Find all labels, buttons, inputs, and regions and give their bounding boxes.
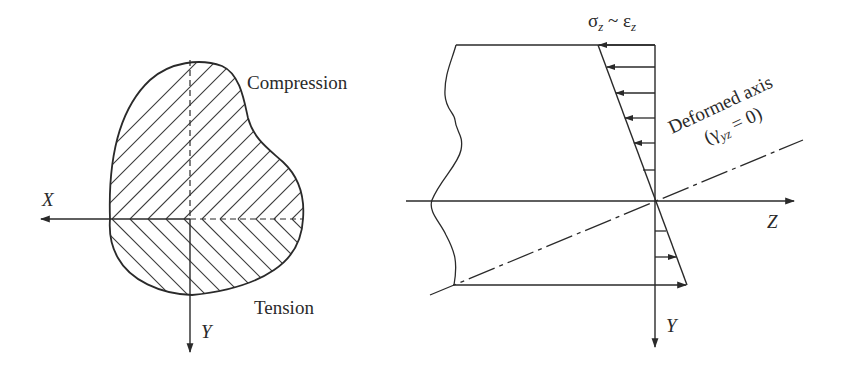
deformed-axis-label: Deformed axis bbox=[665, 71, 776, 138]
compression-label: Compression bbox=[247, 72, 348, 93]
y-axis-label: Y bbox=[201, 321, 214, 342]
x-axis-label: X bbox=[41, 189, 55, 210]
stress-distribution-line bbox=[598, 45, 687, 285]
stress-strain-label: σz ~ εz bbox=[588, 10, 636, 34]
cross-section-panel: Compression Tension X Y bbox=[40, 39, 472, 352]
compression-hatching bbox=[40, 39, 472, 219]
tension-hatching bbox=[40, 219, 412, 339]
deformed-axis-line bbox=[430, 140, 803, 295]
tension-label: Tension bbox=[254, 297, 314, 318]
z-axis-label: Z bbox=[767, 211, 778, 232]
y-axis-label-right: Y bbox=[666, 315, 679, 336]
tension-stress-arrows bbox=[655, 231, 676, 257]
compression-stress-arrows bbox=[599, 45, 655, 170]
bending-stress-diagram: Compression Tension X Y bbox=[0, 0, 841, 369]
break-line bbox=[431, 45, 461, 285]
side-view-panel: σz ~ εz Deformed axis (γyz = 0) Z Y bbox=[406, 10, 803, 347]
